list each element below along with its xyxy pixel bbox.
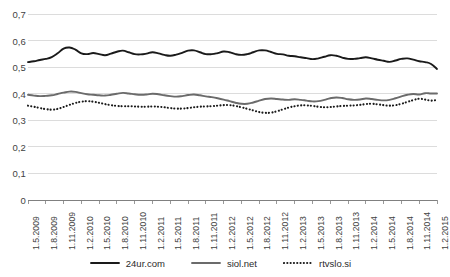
legend-item-24ur-com[interactable]: 24ur.com xyxy=(90,258,165,269)
x-axis-tick-label: 1.11.2009 xyxy=(67,212,77,250)
legend-item-rtvslo-si[interactable]: rtvslo.si xyxy=(283,258,351,269)
x-axis-tick-label: 1.8.2011 xyxy=(191,217,201,250)
x-axis-tick-label: 1.8.2014 xyxy=(405,216,415,250)
x-axis-tick-label: 1.11.2013 xyxy=(351,212,361,250)
x-axis-tick-label: 1.11.2010 xyxy=(138,212,148,250)
legend-label: 24ur.com xyxy=(126,258,165,269)
x-axis-tick-label: 1.5.2009 xyxy=(31,216,41,250)
legend-swatch-icon xyxy=(90,258,120,268)
x-axis-tick-label: 1.5.2012 xyxy=(245,216,255,250)
x-axis-tick-label: 1.2.2010 xyxy=(85,216,95,250)
x-axis-tick-label: 1.11.2012 xyxy=(280,212,290,250)
x-axis-tick-label: 1.5.2010 xyxy=(102,216,112,250)
x-axis-tick-label: 1.8.2012 xyxy=(262,216,272,250)
x-axis-tick-label: 1.2.2014 xyxy=(369,216,379,250)
x-axis-tick-label: 1.2.2015 xyxy=(440,216,450,250)
x-axis-tick-label: 1.2.2013 xyxy=(298,216,308,250)
x-axis-tick-label: 1.8.2010 xyxy=(120,216,130,250)
x-axis-tick-label: 1.11.2011 xyxy=(209,213,219,250)
chart-legend: 24ur.comsiol.netrtvslo.si xyxy=(0,252,441,274)
legend-swatch-icon xyxy=(283,258,313,268)
legend-label: rtvslo.si xyxy=(319,258,351,269)
x-axis-tick-label: 1.5.2011 xyxy=(173,217,183,250)
x-axis-tick-label: 1.5.2013 xyxy=(316,216,326,250)
legend-label: siol.net xyxy=(227,258,257,269)
x-axis-tick-label: 1.5.2014 xyxy=(387,216,397,250)
x-axis-tick-label: 1.2.2011 xyxy=(156,217,166,250)
x-axis-tick-label: 1.8.2013 xyxy=(334,216,344,250)
legend-item-siol-net[interactable]: siol.net xyxy=(191,258,257,269)
x-axis-tick-label: 1.2.2012 xyxy=(227,216,237,250)
x-axis-tick-label: 1.11.2014 xyxy=(422,212,432,250)
legend-swatch-icon xyxy=(191,258,221,268)
x-axis-tick-label: 1.8.2009 xyxy=(49,216,59,250)
